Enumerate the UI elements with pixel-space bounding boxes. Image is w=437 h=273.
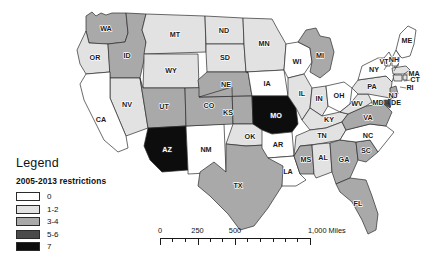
scale-bar-tick — [185, 238, 186, 242]
legend: Legend 2005-2013 restrictions 01-23-45-6… — [16, 156, 106, 254]
state-label-tn: TN — [317, 131, 327, 140]
legend-label: 1-2 — [47, 205, 59, 214]
state-label-wi: WI — [293, 57, 302, 66]
state-label-ks: KS — [223, 108, 233, 117]
legend-label: 3-4 — [47, 217, 59, 226]
state-label-ok: OK — [245, 132, 257, 141]
state-label-nd: ND — [219, 26, 229, 35]
state-ri — [403, 75, 407, 80]
state-label-or: OR — [90, 53, 102, 62]
state-label-md: MD — [372, 98, 383, 107]
legend-swatch — [16, 192, 40, 201]
state-label-wy: WY — [165, 66, 177, 75]
legend-entries: 01-23-45-67 — [16, 191, 106, 252]
state-label-mi: MI — [316, 51, 324, 60]
scale-bar-tick — [222, 238, 223, 242]
scale-bar-tick — [172, 238, 173, 242]
state-label-ma: MA — [408, 69, 419, 78]
state-label-sd: SD — [220, 53, 230, 62]
state-label-co: CO — [204, 101, 215, 110]
legend-title: Legend — [16, 156, 106, 170]
legend-entry: 3-4 — [16, 216, 106, 227]
scale-bar-tick — [297, 238, 298, 242]
state-label-ga: GA — [339, 155, 350, 164]
state-label-ut: UT — [159, 102, 169, 111]
legend-entry: 7 — [16, 241, 106, 252]
state-label-ms: MS — [301, 155, 312, 164]
legend-label: 5-6 — [47, 230, 59, 239]
scale-bar-label: 0 — [158, 226, 162, 235]
state-label-ny: NY — [369, 65, 379, 74]
scale-bar-label: 1,000 Miles — [308, 226, 346, 235]
state-ct — [393, 75, 402, 81]
state-label-al: AL — [318, 153, 328, 162]
scale-bar-tick — [260, 238, 261, 242]
state-label-il: IL — [299, 89, 306, 98]
scale-bar-tick — [285, 238, 286, 242]
state-label-ne: NE — [221, 80, 231, 89]
legend-entry: 1-2 — [16, 204, 106, 215]
state-label-la: LA — [283, 167, 293, 176]
state-label-tx: TX — [233, 181, 242, 190]
state-label-az: AZ — [162, 145, 172, 154]
legend-label: 7 — [47, 242, 51, 251]
scale-bar-tick — [235, 238, 236, 245]
scale-bar-labels: 02505001,000 Miles — [160, 226, 310, 237]
state-label-oh: OH — [334, 91, 345, 100]
scale-bar-tick — [273, 238, 274, 242]
state-label-mo: MO — [270, 111, 282, 120]
state-label-fl: FL — [354, 199, 363, 208]
state-label-vt: VT — [379, 57, 389, 66]
state-label-id: ID — [123, 51, 130, 60]
state-label-wv: WV — [351, 99, 363, 108]
legend-entry: 5-6 — [16, 229, 106, 240]
legend-label: 0 — [47, 192, 51, 201]
state-label-ca: CA — [96, 115, 106, 124]
state-label-sc: SC — [361, 146, 371, 155]
state-label-ky: KY — [324, 115, 334, 124]
scale-bar-tick — [247, 238, 248, 242]
state-label-ia: IA — [263, 79, 270, 88]
legend-entry: 0 — [16, 191, 106, 202]
map-figure: WAORIDMTWYNVCAUTAZNMCONDSDNEKSOKTXMNIAMO… — [0, 0, 437, 273]
state-label-me: ME — [402, 36, 413, 45]
legend-subtitle: 2005-2013 restrictions — [16, 176, 106, 186]
legend-swatch — [16, 230, 40, 239]
scale-bar-tick — [160, 238, 161, 245]
state-label-wa: WA — [100, 24, 112, 33]
scale-bar-label: 500 — [229, 226, 241, 235]
state-label-nh: NH — [389, 55, 399, 64]
state-label-nj: NJ — [388, 91, 397, 100]
state-label-nm: NM — [200, 145, 211, 154]
legend-swatch — [16, 205, 40, 214]
legend-swatch — [16, 217, 40, 226]
scale-bar-tick — [198, 238, 199, 245]
state-label-pa: PA — [367, 82, 376, 91]
states-layer — [77, 12, 416, 234]
scale-bar: 02505001,000 Miles — [160, 226, 310, 245]
scale-bar-tick — [310, 238, 311, 245]
state-label-mn: MN — [258, 39, 269, 48]
scale-bar-tick — [210, 238, 211, 242]
legend-swatch — [16, 242, 40, 251]
state-label-ri: RI — [406, 83, 413, 92]
scale-bar-label: 250 — [191, 226, 203, 235]
state-label-ar: AR — [273, 140, 284, 149]
state-label-in: IN — [315, 94, 322, 103]
state-label-va: VA — [363, 113, 372, 122]
scale-bar-ruler — [160, 238, 310, 245]
state-label-nv: NV — [122, 100, 132, 109]
state-label-nc: NC — [363, 131, 373, 140]
state-label-mt: MT — [170, 30, 181, 39]
